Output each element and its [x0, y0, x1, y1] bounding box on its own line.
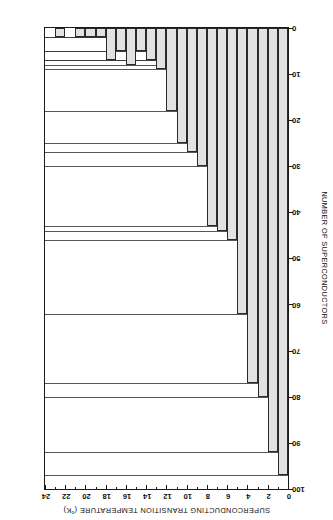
x-tick-label: 2 — [267, 492, 271, 501]
x-tick-label: 16 — [123, 492, 131, 501]
y-tick-label: 50 — [292, 254, 310, 263]
histogram-bar — [177, 28, 187, 143]
x-tick-mark — [248, 485, 249, 490]
histogram-bar — [116, 28, 126, 51]
x-axis-title-text: SUPERCONDUCTING TRANSITION TEMPERATURE ( — [74, 506, 270, 515]
x-tick-label: 18 — [103, 492, 111, 501]
x-tick-mark — [65, 485, 66, 490]
x-minor-tick-mark — [258, 487, 259, 490]
histogram-bar — [197, 28, 207, 166]
x-minor-tick-mark — [156, 487, 157, 490]
x-minor-tick-mark — [197, 487, 198, 490]
x-axis-title: SUPERCONDUCTING TRANSITION TEMPERATURE (… — [0, 506, 333, 516]
bar-top-rule — [45, 475, 288, 476]
x-minor-tick-mark — [278, 487, 279, 490]
x-tick-label: 14 — [143, 492, 151, 501]
histogram-bar — [258, 28, 268, 397]
x-minor-tick-mark — [237, 487, 238, 490]
x-tick-label: 12 — [163, 492, 171, 501]
x-tick-label: 0 — [287, 492, 291, 501]
histogram-bar — [136, 28, 146, 51]
x-tick-mark — [45, 485, 46, 490]
histogram-figure: SUPERCONDUCTING TRANSITION TEMPERATURE (… — [0, 0, 333, 520]
x-tick-mark — [268, 485, 269, 490]
histogram-bar — [86, 28, 96, 37]
y-tick-label: 80 — [292, 392, 310, 401]
y-tick-label: 10 — [292, 70, 310, 79]
x-tick-label: 8 — [206, 492, 210, 501]
x-minor-tick-mark — [96, 487, 97, 490]
y-axis-title: NUMBER OF SUPERCONDUCTORS — [320, 192, 329, 325]
y-tick-label: 60 — [292, 300, 310, 309]
x-tick-label: 22 — [62, 492, 70, 501]
y-tick-label: 40 — [292, 208, 310, 217]
histogram-bar — [187, 28, 197, 152]
x-minor-tick-mark — [75, 487, 76, 490]
x-axis-title-tail: K) — [63, 506, 71, 515]
histogram-bar — [55, 28, 65, 37]
x-tick-mark — [126, 485, 127, 490]
x-tick-mark — [187, 485, 188, 490]
x-tick-mark — [86, 485, 87, 490]
y-tick-label: 30 — [292, 162, 310, 171]
x-tick-label: 24 — [42, 492, 50, 501]
histogram-bar — [156, 28, 166, 69]
bar-top-rule — [45, 397, 288, 398]
histogram-bar — [96, 28, 106, 37]
x-tick-label: 20 — [82, 492, 90, 501]
x-tick-label: 10 — [184, 492, 192, 501]
plot-area: NUMBER OF SUPERCONDUCTORS 01020304050607… — [44, 27, 289, 490]
x-tick-mark — [146, 485, 147, 490]
bar-top-rule — [45, 383, 288, 384]
y-tick-label: 20 — [292, 116, 310, 125]
y-tick-label: 0 — [292, 24, 310, 33]
histogram-bar — [167, 28, 177, 111]
histogram-bar — [106, 28, 116, 60]
x-tick-mark — [207, 485, 208, 490]
x-tick-label: 6 — [226, 492, 230, 501]
x-tick-mark — [167, 485, 168, 490]
y-tick-label: 100 — [292, 485, 310, 494]
y-tick-label: 70 — [292, 346, 310, 355]
histogram-bar — [207, 28, 217, 226]
x-tick-mark — [227, 485, 228, 490]
histogram-bar — [75, 28, 85, 37]
x-minor-tick-mark — [116, 487, 117, 490]
x-minor-tick-mark — [217, 487, 218, 490]
x-minor-tick-mark — [177, 487, 178, 490]
x-tick-mark — [106, 485, 107, 490]
x-tick-mark — [288, 485, 289, 490]
histogram-bar — [227, 28, 237, 240]
y-tick-label: 90 — [292, 438, 310, 447]
histogram-bar — [217, 28, 227, 231]
histogram-bar — [268, 28, 278, 452]
histogram-bar — [278, 28, 288, 475]
x-minor-tick-mark — [136, 487, 137, 490]
histogram-bar — [146, 28, 156, 60]
histogram-bar — [248, 28, 258, 383]
histogram-bar — [126, 28, 136, 65]
x-minor-tick-mark — [55, 487, 56, 490]
histogram-bar — [237, 28, 247, 314]
degree-symbol: o — [71, 510, 74, 516]
x-tick-label: 4 — [246, 492, 250, 501]
bar-top-rule — [45, 452, 288, 453]
